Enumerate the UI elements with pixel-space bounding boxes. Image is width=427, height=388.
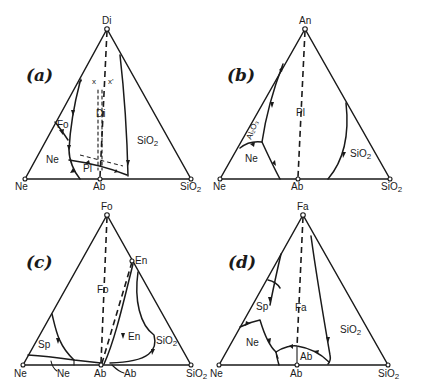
field-label-ne: Ne [57, 368, 70, 379]
apex-label: Fa [297, 201, 309, 212]
panel-a: (a) Di Ne Ab SiO2 Fo Ne Pl Di SiO2 x x' [15, 15, 202, 194]
apex-label: Fo [101, 201, 113, 212]
arrow-icon [342, 152, 346, 158]
field-label-ne: Ne [246, 337, 259, 348]
marker-x: x [92, 77, 96, 86]
ab-point [295, 363, 299, 367]
panel-b: (b) An Ne Ab SiO2 Al₂O₃ Ne Pl SiO2 [213, 15, 403, 194]
field-label-sp: Sp [256, 301, 269, 312]
ternary-triangle [219, 215, 388, 365]
panel-label: (b) [227, 65, 255, 85]
apex-label: Di [102, 15, 111, 26]
field-label-ne: Ne [245, 153, 258, 164]
field-label-sio2: SiO2 [137, 135, 159, 148]
field-label-pl: Pl [83, 163, 92, 174]
field-label-en: En [128, 331, 140, 342]
join-line [297, 217, 303, 347]
vertex-label-ab: Ab [94, 368, 107, 379]
arrow-icon [270, 102, 274, 108]
corner-point [21, 363, 25, 367]
field-label-ab: Ab [300, 351, 313, 362]
corner-point [189, 363, 193, 367]
vertex-label-ab: Ab [291, 181, 304, 192]
apex-point [105, 27, 110, 32]
field-label-sp: Sp [38, 339, 51, 350]
vertex-label-ne: Ne [213, 181, 226, 192]
cotectic-curve [120, 55, 128, 176]
apex-point [301, 213, 306, 218]
field-label-ne: Ne [46, 154, 59, 165]
cotectic-curve [240, 142, 262, 148]
cotectic-curve [104, 264, 133, 364]
field-label-di: Di [96, 108, 105, 119]
arrow-icon [326, 337, 330, 343]
cotectic-curve [110, 272, 155, 363]
panel-c: (c) Fo En Ne Ab SiO2 Sp Ne Fo En SiO2 Ab [14, 201, 208, 381]
corner-point [217, 363, 221, 367]
vertex-label-sio2: SiO2 [381, 181, 403, 194]
vertex-label-ab: Ab [93, 181, 106, 192]
en-point [130, 259, 134, 263]
field-label-sio2: SiO2 [340, 324, 362, 337]
join-line [102, 262, 132, 363]
field-label-sio2: SiO2 [156, 335, 178, 348]
panel-d: (d) Fa Ne Ab SiO2 Sp Ne Fa Ab SiO2 [210, 201, 400, 381]
apex-label: An [299, 15, 311, 26]
field-label-fo: Fo [97, 284, 109, 295]
corner-point [386, 363, 390, 367]
cotectic-curve [311, 236, 330, 364]
panel-label: (d) [228, 252, 256, 272]
cotectic-curve [262, 64, 283, 179]
cotectic-curve [28, 355, 74, 360]
apex-point [303, 27, 308, 32]
join-line [100, 31, 107, 177]
join-line [298, 31, 305, 177]
panel-label: (a) [26, 65, 53, 85]
vertex-label-sio2: SiO2 [186, 368, 208, 381]
arrow-icon [71, 110, 75, 116]
vertex-label-ne: Ne [14, 368, 27, 379]
phase-diagram-figure: (a) Di Ne Ab SiO2 Fo Ne Pl Di SiO2 x x' … [0, 0, 427, 388]
ab-point [99, 363, 103, 367]
vertex-label-ne: Ne [210, 368, 223, 379]
cotectic-curve [328, 103, 347, 179]
field-label-fo: Fo [57, 119, 69, 130]
arrow-icon [126, 160, 130, 166]
field-label-fa: Fa [295, 302, 307, 313]
leader-line [112, 365, 124, 373]
field-label-pl: Pl [296, 107, 305, 118]
arrow-icon [67, 145, 71, 151]
marker-x-prime: x' [108, 77, 114, 86]
field-label-al2o3: Al₂O₃ [245, 119, 261, 141]
vertex-label-sio2: SiO2 [378, 368, 400, 381]
arrow-icon [121, 333, 125, 339]
apex-point [105, 213, 110, 218]
field-label-ab: Ab [124, 368, 137, 379]
vertex-label-ab: Ab [290, 368, 303, 379]
arrow-icon [151, 349, 155, 355]
panel-label: (c) [26, 252, 52, 272]
vertex-label-ne: Ne [15, 181, 28, 192]
vertex-label-sio2: SiO2 [180, 181, 202, 194]
side-point-label-en: En [135, 255, 147, 266]
field-label-sio2: SiO2 [350, 148, 372, 161]
